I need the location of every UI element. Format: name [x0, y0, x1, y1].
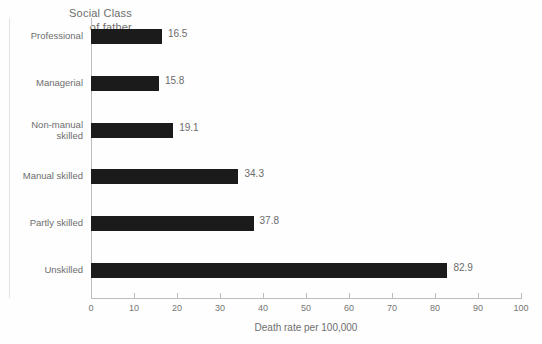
plot-area: ProfessionalManagerialNon-manual skilled… — [91, 18, 521, 299]
bar — [91, 29, 162, 44]
x-axis-tick — [521, 293, 522, 299]
bar — [91, 169, 238, 184]
bar-row: 82.9 — [91, 263, 521, 278]
category-axis-labels: ProfessionalManagerialNon-manual skilled… — [0, 18, 83, 299]
bar-row: 19.1 — [91, 123, 521, 138]
x-axis-tick-label: 20 — [172, 303, 182, 313]
bar-value-label: 19.1 — [179, 122, 198, 133]
x-axis-tick-label: 0 — [88, 303, 93, 313]
x-axis-tick — [306, 293, 307, 299]
x-axis-tick-label: 50 — [301, 303, 311, 313]
bar — [91, 263, 447, 278]
x-axis-title: Death rate per 100,000 — [91, 322, 521, 333]
category-label: Unskilled — [0, 264, 83, 275]
x-axis-tick — [478, 293, 479, 299]
x-axis-tick-label: 60 — [344, 303, 354, 313]
bar-value-label: 82.9 — [453, 262, 472, 273]
x-axis-tick — [435, 293, 436, 299]
x-axis-tick-label: 10 — [129, 303, 139, 313]
x-axis-tick — [392, 293, 393, 299]
bar-row: 37.8 — [91, 216, 521, 231]
bar-value-label: 37.8 — [260, 215, 279, 226]
category-label: Manual skilled — [0, 170, 83, 181]
category-label: Professional — [0, 30, 83, 41]
bar — [91, 76, 159, 91]
bar-row: 16.5 — [91, 29, 521, 44]
bar-row: 15.8 — [91, 76, 521, 91]
x-axis-tick-label: 40 — [258, 303, 268, 313]
x-axis-tick-label: 80 — [430, 303, 440, 313]
bar-value-label: 16.5 — [168, 28, 187, 39]
category-label: Non-manual skilled — [0, 119, 83, 141]
bar-value-label: 34.3 — [244, 168, 263, 179]
x-axis-tick — [91, 293, 92, 299]
bar-chart: Social Class of father ProfessionalManag… — [0, 0, 542, 344]
category-label: Partly skilled — [0, 217, 83, 228]
x-axis-tick-label: 30 — [215, 303, 225, 313]
bar — [91, 123, 173, 138]
bar-value-label: 15.8 — [165, 75, 184, 86]
bar-row: 34.3 — [91, 169, 521, 184]
x-axis-tick-label: 70 — [387, 303, 397, 313]
x-axis-tick-label: 100 — [513, 303, 528, 313]
x-axis-tick — [263, 293, 264, 299]
bar — [91, 216, 254, 231]
x-axis-tick — [134, 293, 135, 299]
x-axis-tick — [220, 293, 221, 299]
x-axis-tick — [349, 293, 350, 299]
category-label: Managerial — [0, 77, 83, 88]
x-axis-tick-label: 90 — [473, 303, 483, 313]
x-axis-tick — [177, 293, 178, 299]
